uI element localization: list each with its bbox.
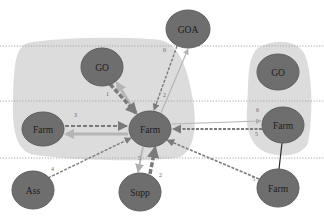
node-label: Ass [26, 186, 41, 196]
edge-label: 2 [159, 172, 162, 178]
edge-label: 6 [163, 47, 166, 53]
edge-label: 5 [252, 176, 255, 182]
edge-label: 6 [256, 107, 259, 113]
edge-label: 5 [138, 155, 141, 161]
node-go-left[interactable]: GO [81, 48, 123, 86]
node-label: Farm [33, 125, 54, 135]
node-farm-left[interactable]: Farm [22, 112, 64, 146]
network-diagram: GOA GO GO Farm Farm Farm Ass Supp Farm 1… [0, 0, 324, 219]
node-label: Farm [140, 125, 161, 135]
edge-label: 4 [51, 166, 54, 172]
node-label: GO [95, 63, 109, 73]
node-label: Farm [273, 121, 294, 131]
edge-label: 3 [74, 112, 77, 118]
node-farm-center[interactable]: Farm [129, 111, 171, 147]
node-label: Farm [268, 184, 289, 194]
node-label: Supp [130, 188, 150, 198]
edge-label: 1 [106, 91, 109, 97]
edge-label: 2 [163, 92, 166, 98]
edge-label: 5 [255, 131, 258, 137]
node-label: GOA [178, 25, 199, 35]
node-goa[interactable]: GOA [166, 10, 210, 48]
node-farm-bottom[interactable]: Farm [257, 169, 299, 207]
node-go-right[interactable]: GO [257, 54, 299, 90]
node-supp[interactable]: Supp [119, 173, 161, 211]
node-ass[interactable]: Ass [12, 171, 54, 209]
node-label: GO [271, 68, 285, 78]
node-farm-right[interactable]: Farm [262, 107, 304, 143]
